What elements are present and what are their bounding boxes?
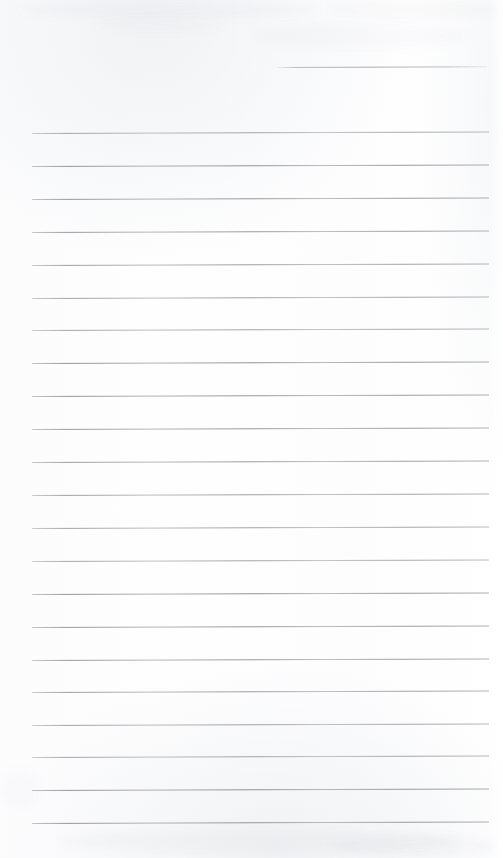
writing-area[interactable] xyxy=(32,120,489,830)
header-rule-line xyxy=(277,66,487,68)
scan-smudge xyxy=(60,828,460,854)
scan-smudge xyxy=(255,22,465,50)
scan-smudge xyxy=(20,2,320,18)
scan-smudge xyxy=(330,836,500,856)
scan-smudge xyxy=(330,0,500,20)
scan-smudge xyxy=(95,18,225,32)
right-margin-glow xyxy=(489,0,503,858)
scanned-notebook-page xyxy=(0,0,503,858)
